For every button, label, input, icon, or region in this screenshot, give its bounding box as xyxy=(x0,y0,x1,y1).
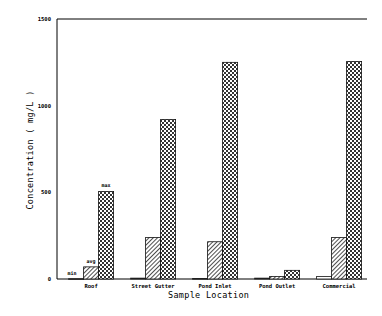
bar-min xyxy=(193,278,208,279)
bar-annotation: min xyxy=(68,270,77,276)
bar-max xyxy=(285,270,300,279)
bar-max xyxy=(161,120,176,279)
bar-min xyxy=(69,279,84,280)
bar-avg xyxy=(146,237,161,279)
bar-chart: 050010001500minavgmaxRoofStreet GutterPo… xyxy=(0,0,382,316)
bar-min xyxy=(255,278,270,279)
bar-avg xyxy=(208,242,223,279)
bar-max xyxy=(223,62,238,279)
x-tick-label: Pond Outlet xyxy=(259,283,295,289)
bar-avg xyxy=(332,237,347,279)
x-tick-label: Roof xyxy=(84,283,97,289)
y-axis-title: Concentration ( mg/L ) xyxy=(25,70,35,230)
x-tick-label: Pond Inlet xyxy=(199,283,232,289)
x-tick-label: Commercial xyxy=(323,283,356,289)
y-tick-label: 0 xyxy=(48,276,51,282)
y-tick-label: 1000 xyxy=(38,103,51,109)
bar-min xyxy=(131,278,146,279)
bar-avg xyxy=(270,276,285,279)
bar-annotation: avg xyxy=(87,258,96,265)
x-tick-label: Street Gutter xyxy=(132,283,176,289)
y-tick-label: 500 xyxy=(41,189,51,195)
x-axis-title: Sample Location xyxy=(168,290,249,300)
bar-avg xyxy=(84,267,99,279)
chart-canvas: 050010001500minavgmaxRoofStreet GutterPo… xyxy=(0,0,382,316)
bar-max xyxy=(99,191,114,279)
y-tick-label: 1500 xyxy=(38,16,51,22)
bar-annotation: max xyxy=(102,182,111,188)
bar-max xyxy=(347,61,362,279)
bar-min xyxy=(317,276,332,279)
